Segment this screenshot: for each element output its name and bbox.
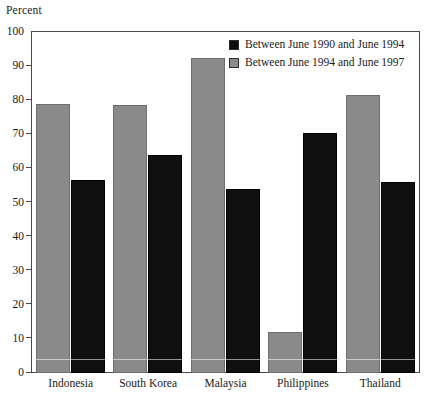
x-axis-tick-label: Philippines xyxy=(264,377,341,389)
y-axis-tick-label: 90 xyxy=(13,57,25,73)
y-axis-tick-label: 80 xyxy=(13,91,25,107)
legend: Between June 1990 and June 1994Between J… xyxy=(229,37,404,70)
x-axis-tick-label: Thailand xyxy=(342,377,419,389)
legend-label: Between June 1994 and June 1997 xyxy=(245,56,404,69)
y-axis-tick-mark xyxy=(26,337,31,338)
bars-area xyxy=(32,32,419,373)
y-axis-tick-label: 20 xyxy=(13,296,25,312)
x-axis-tick-label: Indonesia xyxy=(32,377,109,389)
bar-series-1994-1997 xyxy=(191,58,225,373)
bar-series-1990-1994 xyxy=(381,182,415,373)
legend-label: Between June 1990 and June 1994 xyxy=(245,38,404,51)
bar-group xyxy=(109,32,186,373)
bar-series-1994-1997 xyxy=(36,104,70,373)
bar-series-1990-1994 xyxy=(303,133,337,373)
y-axis-tick-mark xyxy=(26,235,31,236)
y-axis-tick-mark xyxy=(26,167,31,168)
y-axis-tick-label: 50 xyxy=(13,194,25,210)
y-axis-tick-label: 40 xyxy=(13,228,25,244)
x-axis-tick-label: Malaysia xyxy=(187,377,264,389)
y-axis-tick-mark xyxy=(26,201,31,202)
legend-swatch-black xyxy=(229,40,239,50)
x-axis: IndonesiaSouth KoreaMalaysiaPhilippinesT… xyxy=(32,377,419,401)
y-axis-tick-mark xyxy=(26,99,31,100)
legend-item: Between June 1994 and June 1997 xyxy=(229,55,404,70)
y-axis-tick-mark xyxy=(26,372,31,373)
bar-series-1990-1994 xyxy=(71,180,105,373)
bar-group xyxy=(342,32,419,373)
y-axis-tick-label: 70 xyxy=(13,125,25,141)
y-axis-tick-mark xyxy=(26,133,31,134)
y-axis-tick-label: 30 xyxy=(13,262,25,278)
bar-series-1994-1997 xyxy=(113,105,147,373)
bar-group xyxy=(264,32,341,373)
x-axis-tick-label: South Korea xyxy=(109,377,186,389)
bar-group xyxy=(187,32,264,373)
bar-series-1990-1994 xyxy=(226,189,260,373)
y-axis-tick-mark xyxy=(26,269,31,270)
y-axis-tick-mark xyxy=(26,303,31,304)
bar-group xyxy=(32,32,109,373)
legend-swatch-gray xyxy=(229,58,239,68)
y-axis-tick-label: 10 xyxy=(13,330,25,346)
y-axis: 0102030405060708090100 xyxy=(0,31,31,373)
y-axis-title: Percent xyxy=(6,4,42,16)
y-axis-tick-label: 100 xyxy=(7,23,24,39)
bar-series-1994-1997 xyxy=(346,95,380,373)
y-axis-tick-mark xyxy=(26,65,31,66)
bar-series-1990-1994 xyxy=(148,155,182,373)
y-axis-tick-label: 0 xyxy=(18,364,24,380)
y-axis-tick-label: 60 xyxy=(13,159,25,175)
legend-item: Between June 1990 and June 1994 xyxy=(229,37,404,52)
bar-series-1994-1997 xyxy=(268,332,302,373)
